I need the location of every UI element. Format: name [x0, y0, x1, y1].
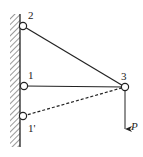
load-p: P: [125, 91, 138, 132]
member-1prime-3-dashed: [23, 87, 125, 116]
node-labels: 2 1 1' 3: [28, 9, 127, 134]
fixed-wall: [10, 14, 20, 147]
members: [23, 26, 125, 116]
wall-hatch: [10, 14, 20, 147]
node-3-pin: [121, 83, 128, 90]
load-label: P: [130, 120, 138, 132]
node-2-label: 2: [28, 9, 34, 21]
node-1-label: 1: [28, 69, 34, 81]
node-2-pin: [19, 22, 26, 29]
truss-diagram: P 2 1 1' 3: [0, 0, 143, 157]
nodes: [19, 22, 128, 119]
node-1prime-label: 1': [28, 122, 36, 134]
node-3-label: 3: [121, 70, 127, 82]
node-1-pin: [20, 82, 27, 89]
member-1-3: [24, 86, 125, 87]
member-2-3: [23, 26, 125, 87]
node-1prime-pin: [19, 112, 26, 119]
